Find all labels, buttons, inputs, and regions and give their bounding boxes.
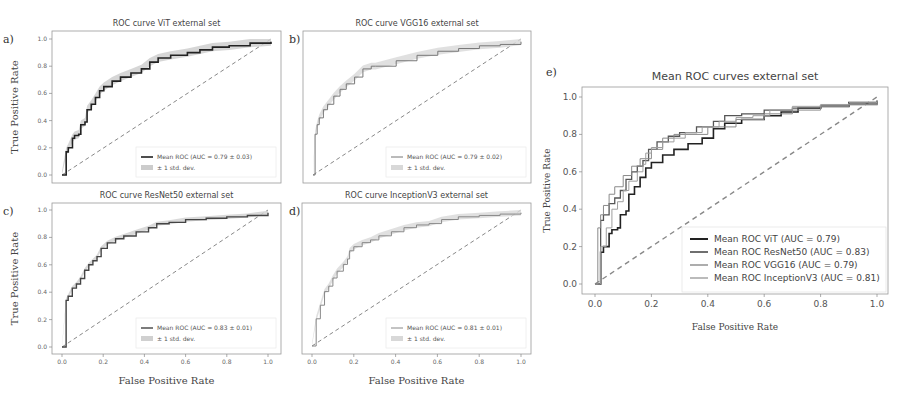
y-tick-label: 0.8 [37,62,47,69]
panel-label: c) [3,205,13,218]
y-tick-label: 0.4 [37,117,47,124]
x-tick-label: 0.4 [140,358,150,365]
y-axis-label: True Positive Rate [9,60,20,153]
x-tick-label: 0.6 [433,358,443,365]
panel-e: e)Mean ROC curves external set0.00.00.20… [542,66,888,332]
x-tick-label: 1.0 [870,299,885,309]
panel-d: d)ROC curve InceptionV3 external set0.00… [289,191,531,365]
y-tick-label: 0.4 [563,204,578,214]
x-tick-label: 0.0 [307,358,317,365]
x-tick-label: 0.4 [701,299,716,309]
x-tick-label: 0.0 [588,299,603,309]
y-tick-label: 0.2 [37,316,47,323]
y-tick-label: 0.8 [37,233,47,240]
x-tick-label: 0.8 [474,358,484,365]
x-tick-label: 1.0 [516,358,526,365]
panel-label: e) [546,66,557,79]
chart-title: ROC curve InceptionV3 external set [345,191,488,200]
y-tick-label: 0.2 [37,144,47,151]
legend-label: Mean ROC VGG16 (AUC = 0.79) [714,260,858,270]
x-tick-label: 0.6 [181,358,191,365]
legend-label: Mean ROC ResNet50 (AUC = 0.83) [714,247,869,257]
legend: Mean ROC ViT (AUC = 0.79)Mean ROC ResNet… [682,227,886,292]
panel-label: d) [289,205,300,218]
legend-box [136,147,276,177]
legend-band-swatch [141,336,153,341]
panel-label: a) [3,33,14,46]
legend-label: Mean ROC ViT (AUC = 0.79) [714,234,840,244]
legend-label: Mean ROC (AUC = 0.81 ± 0.01) [407,324,502,331]
x-tick-label: 0.2 [644,299,658,309]
legend-band-swatch [391,336,403,341]
legend: Mean ROC (AUC = 0.81 ± 0.01)± 1 std. dev… [386,318,526,348]
legend: Mean ROC (AUC = 0.79 ± 0.02)± 1 std. dev… [386,147,526,177]
legend: Mean ROC (AUC = 0.83 ± 0.01)± 1 std. dev… [136,318,276,348]
legend-label: ± 1 std. dev. [157,335,195,342]
legend-label: Mean ROC (AUC = 0.79 ± 0.03) [157,153,252,160]
x-tick-label: 1.0 [263,358,273,365]
legend-label: ± 1 std. dev. [157,164,195,171]
y-tick-label: 0.0 [37,171,47,178]
x-tick-label: 0.8 [813,299,828,309]
y-tick-label: 0.6 [37,89,47,96]
legend-box [136,318,276,348]
panel-label: b) [289,33,300,46]
y-tick-label: 0.2 [563,242,577,252]
legend-label: Mean ROC (AUC = 0.83 ± 0.01) [157,324,252,331]
panel-c: c)ROC curve ResNet50 external set0.00.00… [3,191,281,365]
legend-label: Mean ROC (AUC = 0.79 ± 0.02) [407,153,502,160]
legend-label: ± 1 std. dev. [407,164,445,171]
legend-band-swatch [141,165,153,170]
legend-label: ± 1 std. dev. [407,335,445,342]
panel-b: b)ROC curve VGG16 external setMean ROC (… [289,19,531,183]
x-tick-label: 0.8 [222,358,232,365]
x-axis-label: False Positive Rate [692,322,778,332]
y-tick-label: 1.0 [37,206,47,213]
x-tick-label: 0.2 [98,358,108,365]
legend-band-swatch [391,165,403,170]
x-axis-label: False Positive Rate [119,375,215,386]
y-axis-label: True Positive Rate [9,232,20,325]
legend-box [386,147,526,177]
y-tick-label: 1.0 [563,92,578,102]
x-tick-label: 0.0 [57,358,67,365]
chart-title: ROC curve ResNet50 external set [100,191,234,200]
chart-title: ROC curve ViT external set [113,19,221,28]
y-tick-label: 0.6 [37,261,47,268]
x-tick-label: 0.2 [349,358,359,365]
roc-figure: a)ROC curve ViT external set0.00.20.40.6… [0,0,909,401]
y-tick-label: 0.4 [37,288,47,295]
y-tick-label: 0.0 [37,343,47,350]
y-tick-label: 0.0 [563,279,578,289]
chart-title: Mean ROC curves external set [652,70,819,83]
legend: Mean ROC (AUC = 0.79 ± 0.03)± 1 std. dev… [136,147,276,177]
x-axis-label: False Positive Rate [369,375,465,386]
legend-box [386,318,526,348]
chart-title: ROC curve VGG16 external set [355,19,478,28]
y-tick-label: 0.8 [563,129,578,139]
panel-a: a)ROC curve ViT external set0.00.20.40.6… [3,19,281,183]
y-axis-label: True Positive Rate [542,149,552,233]
legend-label: Mean ROC InceptionV3 (AUC = 0.81) [714,273,880,283]
x-tick-label: 0.6 [757,299,772,309]
y-tick-label: 1.0 [37,35,47,42]
y-tick-label: 0.6 [563,167,578,177]
x-tick-label: 0.4 [391,358,401,365]
